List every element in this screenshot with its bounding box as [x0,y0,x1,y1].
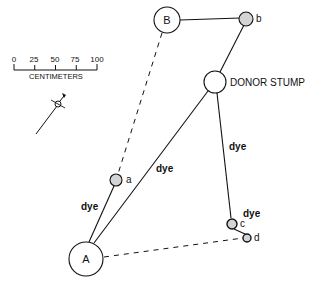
edge-B-a-dashed [118,33,162,174]
edge-donor-c [217,93,231,218]
scale-tick-50: 50 [51,55,60,64]
edge-label-A-a: dye [81,201,99,212]
edge-label-c-d: dye [243,208,261,219]
scale-tick-0: 0 [12,55,17,64]
scale-tick-25: 25 [30,55,39,64]
scale-tick-75: 75 [71,55,80,64]
edge-label-donor-c: dye [229,141,247,152]
edge-label-donor-A: dye [156,163,174,174]
node-d: d [243,232,260,243]
node-A-label: A [82,253,90,265]
scale-bar: 0 25 50 75 100 CENTIMETERS [12,55,104,81]
scale-unit-label: CENTIMETERS [29,72,83,81]
edge-A-d-dashed [104,238,243,257]
scale-tick-100: 100 [90,55,104,64]
node-donor-stump: DONOR STUMP [204,71,305,93]
node-c-label: c [240,218,245,229]
node-b: b [239,12,262,26]
edge-c-d [234,229,245,234]
root-graft-diagram: 0 25 50 75 100 CENTIMETERS B DONOR STUMP [0,0,324,281]
node-a: a [110,174,132,186]
north-arrow-icon [36,93,66,134]
node-c: c [227,218,245,229]
edge-B-b [180,18,240,20]
edges-solid [89,18,245,243]
edge-donor-A [94,91,208,243]
node-A: A [69,242,103,276]
node-B-label: B [163,14,170,26]
node-B: B [154,7,180,33]
node-d-label: d [254,232,260,243]
node-a-label: a [126,174,132,185]
node-b-label: b [256,13,262,24]
edge-b-donor [220,25,244,72]
node-donor-stump-label: DONOR STUMP [230,77,305,88]
